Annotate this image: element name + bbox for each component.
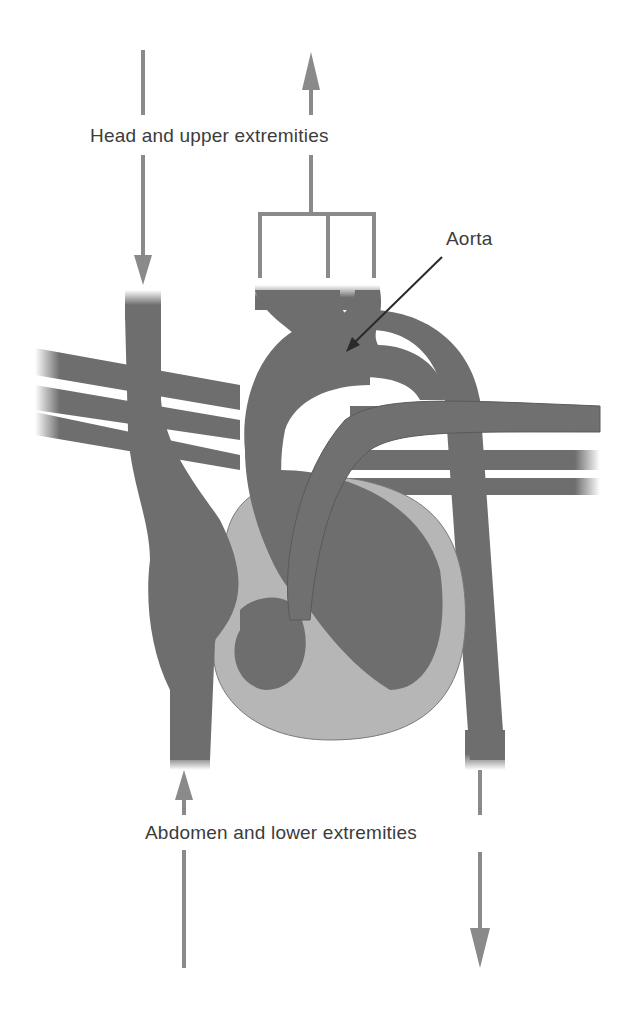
descending-aorta-outflow-arrow: [470, 770, 490, 968]
aortic-arch-outflow-arrow: [260, 52, 374, 278]
diagram-canvas: [0, 0, 621, 1033]
aorta-label: Aorta: [446, 228, 492, 250]
heart: [214, 470, 466, 740]
svc-inflow-arrow: [134, 50, 152, 285]
vena-cava: [125, 290, 239, 770]
heart-circulation-diagram: Head and upper extremities Aorta Abdomen…: [0, 0, 621, 1033]
head-upper-extremities-label: Head and upper extremities: [90, 125, 329, 147]
abdomen-lower-extremities-label: Abdomen and lower extremities: [143, 822, 419, 844]
ivc-inflow-arrow: [175, 770, 193, 968]
